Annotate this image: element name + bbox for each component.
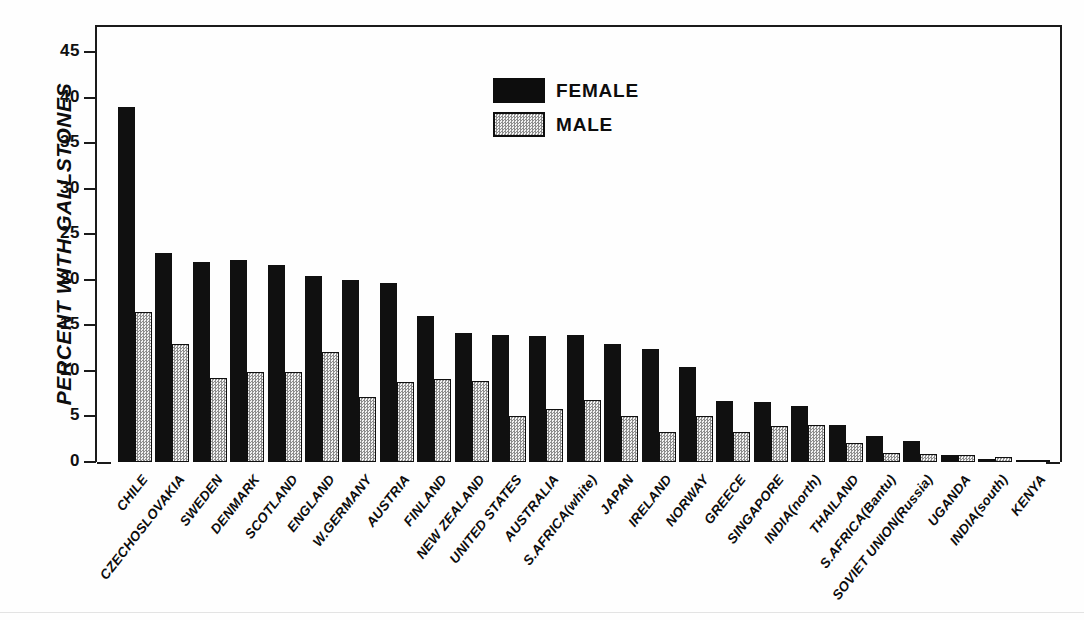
legend-label-female: FEMALE bbox=[556, 80, 639, 102]
x-axis-label: S.AFRICA(white) bbox=[520, 472, 600, 568]
axis-foot-left bbox=[97, 462, 111, 464]
legend-label-male: MALE bbox=[556, 114, 613, 136]
x-axis-label: JAPAN bbox=[597, 472, 637, 517]
y-tick-label-40: 40 bbox=[40, 87, 80, 107]
axis-foot-right bbox=[1046, 462, 1060, 464]
y-tick-label-0: 0 bbox=[40, 451, 80, 471]
y-tick-label-10: 10 bbox=[40, 360, 80, 380]
y-tick-label-45: 45 bbox=[40, 41, 80, 61]
y-tick-label-5: 5 bbox=[40, 405, 80, 425]
legend-swatch-female-icon bbox=[493, 78, 545, 103]
legend-item-female: FEMALE bbox=[493, 78, 639, 103]
x-axis-label: CHILE bbox=[113, 472, 150, 514]
x-axis-label: KENYA bbox=[1007, 472, 1048, 518]
scan-artifact bbox=[0, 612, 1084, 613]
y-tick-label-35: 35 bbox=[40, 132, 80, 152]
y-tick-label-30: 30 bbox=[40, 178, 80, 198]
y-tick-label-15: 15 bbox=[40, 314, 80, 334]
y-tick-label-25: 25 bbox=[40, 223, 80, 243]
chart-screenshot: PERCENT WITH GALLSTONES 0510152025303540… bbox=[0, 0, 1084, 620]
y-tick-label-20: 20 bbox=[40, 269, 80, 289]
legend-swatch-male-icon bbox=[493, 112, 545, 137]
legend: FEMALE MALE bbox=[493, 78, 639, 146]
legend-item-male: MALE bbox=[493, 112, 639, 137]
x-axis-label: NEW ZEALAND bbox=[413, 472, 488, 562]
